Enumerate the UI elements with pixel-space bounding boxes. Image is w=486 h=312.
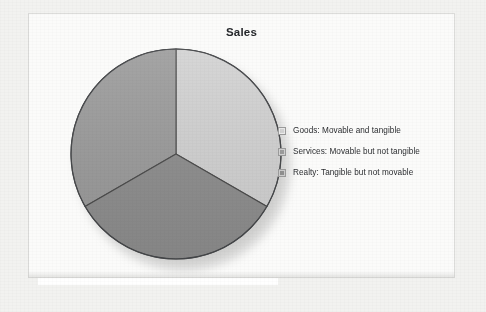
legend-swatch-realty bbox=[278, 169, 286, 177]
legend-item-goods[interactable]: Goods: Movable and tangible bbox=[278, 120, 450, 141]
panel-bottom-shadow bbox=[28, 271, 455, 278]
chart-panel: Sales Goods: Movable and tangibl bbox=[28, 13, 455, 278]
pie-chart-svg bbox=[70, 48, 282, 260]
pie-chart-area bbox=[45, 35, 275, 267]
bottom-white-bar bbox=[38, 278, 278, 285]
legend-item-services[interactable]: Services: Movable but not tangible bbox=[278, 141, 450, 162]
legend-swatch-services bbox=[278, 148, 286, 156]
chart-legend: Goods: Movable and tangible Services: Mo… bbox=[278, 120, 450, 183]
pie-shading-overlay bbox=[71, 49, 281, 259]
legend-label-goods: Goods: Movable and tangible bbox=[293, 126, 401, 135]
legend-item-realty[interactable]: Realty: Tangible but not movable bbox=[278, 162, 450, 183]
legend-label-services: Services: Movable but not tangible bbox=[293, 147, 420, 156]
legend-swatch-goods bbox=[278, 127, 286, 135]
legend-label-realty: Realty: Tangible but not movable bbox=[293, 168, 413, 177]
